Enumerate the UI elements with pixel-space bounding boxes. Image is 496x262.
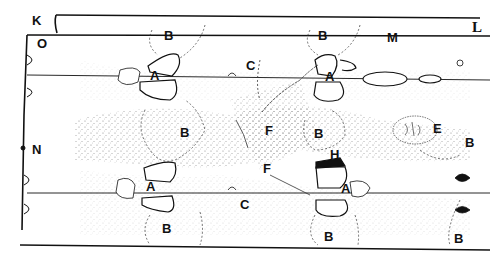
label-k: K <box>32 14 41 27</box>
label-b-2: B <box>318 29 327 42</box>
label-b-3: B <box>180 126 189 139</box>
label-b-6: B <box>162 222 171 235</box>
label-m: M <box>387 31 398 44</box>
label-c-1: C <box>246 59 255 72</box>
label-a-4: A <box>341 182 350 195</box>
label-n: N <box>32 143 41 156</box>
label-b-8: B <box>454 232 463 245</box>
label-o: O <box>37 37 47 50</box>
label-a-3: A <box>146 180 155 193</box>
label-e: E <box>433 122 442 135</box>
label-b-7: B <box>324 230 333 243</box>
label-f-1: F <box>265 124 273 137</box>
label-b-1: B <box>164 29 173 42</box>
label-l: L <box>472 20 482 35</box>
label-a-1: A <box>150 69 159 82</box>
label-b-4: B <box>314 127 323 140</box>
label-a-2: A <box>325 70 334 83</box>
label-b-5: B <box>465 136 474 149</box>
stipple-bands <box>75 60 470 235</box>
label-c-2: C <box>240 198 249 211</box>
label-f-2: F <box>263 162 271 175</box>
label-h: H <box>330 148 339 161</box>
diagram-canvas <box>0 0 496 262</box>
